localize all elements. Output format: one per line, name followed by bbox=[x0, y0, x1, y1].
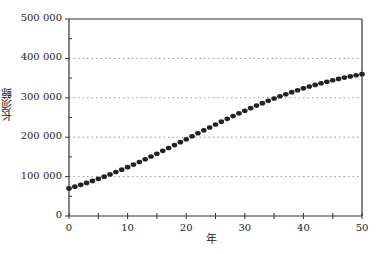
data-point bbox=[119, 167, 125, 172]
data-point bbox=[283, 92, 289, 97]
x-tick-label: 40 bbox=[288, 222, 318, 233]
data-point bbox=[230, 114, 236, 119]
data-point bbox=[254, 103, 260, 108]
data-point bbox=[96, 177, 102, 182]
x-tick-label: 50 bbox=[347, 222, 377, 233]
y-tick-label: 300 000 bbox=[21, 91, 62, 102]
data-point bbox=[324, 79, 330, 84]
data-point bbox=[154, 151, 160, 156]
data-point bbox=[342, 75, 348, 80]
data-point bbox=[195, 131, 201, 136]
data-point bbox=[295, 88, 301, 93]
data-point bbox=[277, 94, 283, 99]
data-point bbox=[90, 179, 96, 184]
data-point bbox=[113, 170, 119, 175]
x-tick-label: 0 bbox=[54, 222, 84, 233]
data-point bbox=[84, 181, 90, 186]
axes bbox=[65, 19, 362, 219]
gridlines bbox=[69, 58, 362, 176]
data-point bbox=[318, 81, 324, 86]
data-point bbox=[353, 73, 359, 78]
data-point bbox=[172, 143, 178, 148]
data-series-points bbox=[66, 72, 365, 191]
data-point bbox=[224, 117, 230, 122]
data-point bbox=[248, 106, 254, 111]
y-tick-label: 100 000 bbox=[21, 170, 62, 181]
data-point bbox=[166, 146, 172, 151]
data-point bbox=[137, 160, 143, 165]
data-point bbox=[125, 165, 131, 170]
data-point bbox=[359, 72, 365, 77]
x-tick-label: 30 bbox=[230, 222, 260, 233]
data-point bbox=[336, 77, 342, 82]
y-tick-label: 200 000 bbox=[21, 130, 62, 141]
y-tick-label: 400 000 bbox=[21, 51, 62, 62]
data-point bbox=[107, 172, 113, 177]
x-tick-label: 20 bbox=[171, 222, 201, 233]
data-point bbox=[312, 83, 318, 88]
x-axis-label: 年 bbox=[206, 230, 217, 246]
data-point bbox=[201, 128, 207, 133]
data-point bbox=[213, 122, 219, 127]
data-point bbox=[219, 119, 225, 124]
data-point bbox=[207, 125, 213, 130]
data-point bbox=[347, 74, 353, 79]
y-tick-label: 0 bbox=[56, 209, 62, 220]
data-point bbox=[101, 174, 107, 179]
data-point bbox=[306, 84, 312, 89]
data-point bbox=[148, 154, 154, 159]
data-point bbox=[142, 157, 148, 162]
data-point bbox=[289, 90, 295, 95]
data-point bbox=[236, 111, 242, 116]
data-point bbox=[330, 78, 336, 83]
data-point bbox=[189, 134, 195, 139]
data-point bbox=[183, 137, 189, 142]
data-point bbox=[131, 162, 137, 167]
data-point bbox=[160, 149, 166, 154]
data-point bbox=[260, 101, 266, 106]
y-axis-label: 长须鲸 bbox=[2, 88, 18, 121]
data-point bbox=[301, 86, 307, 91]
data-point bbox=[72, 184, 78, 189]
data-point bbox=[265, 99, 271, 104]
data-point bbox=[271, 96, 277, 101]
x-tick-label: 10 bbox=[113, 222, 143, 233]
data-point bbox=[78, 183, 84, 188]
data-point bbox=[242, 108, 248, 113]
y-tick-label: 500 000 bbox=[21, 12, 62, 23]
data-point bbox=[178, 140, 184, 145]
data-point bbox=[66, 186, 72, 191]
